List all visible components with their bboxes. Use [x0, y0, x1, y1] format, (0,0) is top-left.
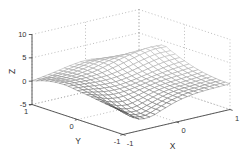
y-tick-label-0: -1 [114, 137, 121, 146]
z-tick-label-2: 5 [22, 53, 26, 62]
figure: -50510-101-101XYZ [0, 0, 251, 153]
y-tick-label-2: 1 [24, 107, 28, 116]
z-axis-label: Z [7, 69, 17, 74]
x-axis-label: X [170, 141, 176, 151]
x-tick-label-0: -1 [127, 139, 134, 148]
x-tick-label-2: 1 [235, 114, 239, 123]
surface-mesh [32, 45, 230, 119]
z-tick-label-1: 0 [22, 77, 26, 86]
x-tick-label-1: 0 [181, 126, 185, 135]
mesh-plot: -50510-101-101XYZ [0, 0, 251, 153]
y-tick-label-1: 0 [69, 122, 73, 131]
z-tick-label-3: 10 [18, 30, 26, 39]
y-axis-label: Y [75, 136, 81, 146]
